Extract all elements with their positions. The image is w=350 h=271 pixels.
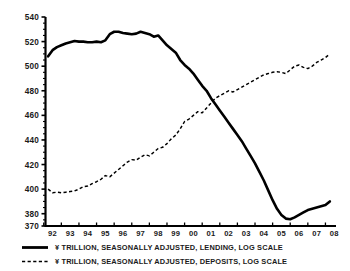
y-tick-label: 520 <box>25 38 40 47</box>
x-tick-label: 95 <box>101 229 110 238</box>
y-tick-label: 460 <box>25 111 40 120</box>
x-tick-label: 07 <box>312 229 321 238</box>
y-tick-label: 440 <box>25 136 40 145</box>
x-tick-label: 00 <box>189 229 198 238</box>
x-tick-label: 98 <box>154 229 163 238</box>
line-chart-figure: 370380400420440460480500520540 929394959… <box>0 0 350 271</box>
x-tick-label: 94 <box>83 229 92 238</box>
x-tick-label: 03 <box>242 229 251 238</box>
x-tick-label: 96 <box>119 229 128 238</box>
x-tick-label: 92 <box>48 229 57 238</box>
y-tick-label: 540 <box>25 13 40 22</box>
legend-label-lending: ¥ TRILLION, SEASONALLY ADJUSTED, LENDING… <box>55 243 283 252</box>
x-tick-label: 97 <box>136 229 145 238</box>
x-tick-label: 08 <box>330 229 339 238</box>
y-tick-label: 500 <box>25 62 40 71</box>
legend-label-deposits: ¥ TRILLION, SEASONALLY ADJUSTED, DEPOSIT… <box>55 257 287 266</box>
y-tick-label: 380 <box>25 210 40 219</box>
y-tick-label: 400 <box>25 185 40 194</box>
y-tick-label: 480 <box>25 87 40 96</box>
x-tick-label: 06 <box>295 229 304 238</box>
y-tick-label: 370 <box>25 222 40 231</box>
y-tick-label: 420 <box>25 161 40 170</box>
x-axis-tick-labels: 9293949596979899000102030405060708 <box>48 229 339 238</box>
x-tick-label: 99 <box>171 229 180 238</box>
x-tick-label: 02 <box>224 229 233 238</box>
x-tick-label: 01 <box>207 229 216 238</box>
x-tick-label: 93 <box>66 229 75 238</box>
chart-container: 370380400420440460480500520540 929394959… <box>0 0 350 271</box>
x-tick-label: 05 <box>277 229 286 238</box>
x-tick-label: 04 <box>259 229 268 238</box>
